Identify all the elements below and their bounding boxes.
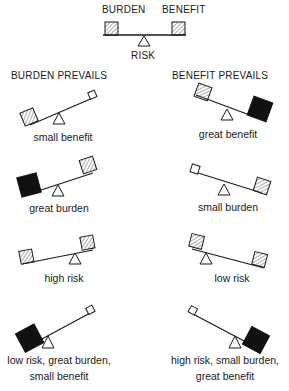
- caption-small-burden: small burden: [180, 201, 276, 213]
- caption-great-burden: great burden: [14, 202, 104, 214]
- caption-low-risk-great-burden-line1: low risk, great burden,: [0, 354, 118, 366]
- column-header-benefit-prevails: BENEFIT PREVAILS: [172, 70, 268, 81]
- caption-small-benefit-line2: small benefit: [0, 370, 118, 382]
- caption-high-risk-small-burden-line1: high risk, small burden,: [162, 354, 288, 366]
- caption-high-risk: high risk: [24, 272, 104, 284]
- caption-low-risk: low risk: [192, 272, 272, 284]
- seesaw-low-risk: [189, 234, 268, 268]
- seesaw-great-burden: [17, 156, 97, 197]
- caption-great-benefit-line2: great benefit: [162, 370, 288, 382]
- seesaw-small-benefit: [20, 90, 97, 126]
- legend-benefit-label: BENEFIT: [162, 4, 206, 15]
- burden-weight-hatched: [105, 22, 118, 35]
- column-header-burden-prevails: BURDEN PREVAILS: [11, 70, 107, 81]
- seesaw-high-risk-small-burden-great-benefit: [188, 306, 269, 354]
- benefit-weight-hatched: [172, 22, 185, 35]
- seesaw-small-burden: [190, 164, 271, 195]
- risk-pivot-triangle: [138, 36, 150, 46]
- seesaw-high-risk: [19, 235, 95, 264]
- caption-great-benefit: great benefit: [180, 128, 276, 140]
- caption-small-benefit: small benefit: [18, 131, 108, 143]
- legend-risk-label: RISK: [131, 50, 155, 61]
- legend-burden-label: BURDEN: [102, 4, 145, 15]
- seesaw-low-risk-great-burden-small-benefit: [15, 305, 95, 352]
- seesaw-great-benefit: [194, 83, 273, 122]
- legend-seesaw: [103, 22, 186, 46]
